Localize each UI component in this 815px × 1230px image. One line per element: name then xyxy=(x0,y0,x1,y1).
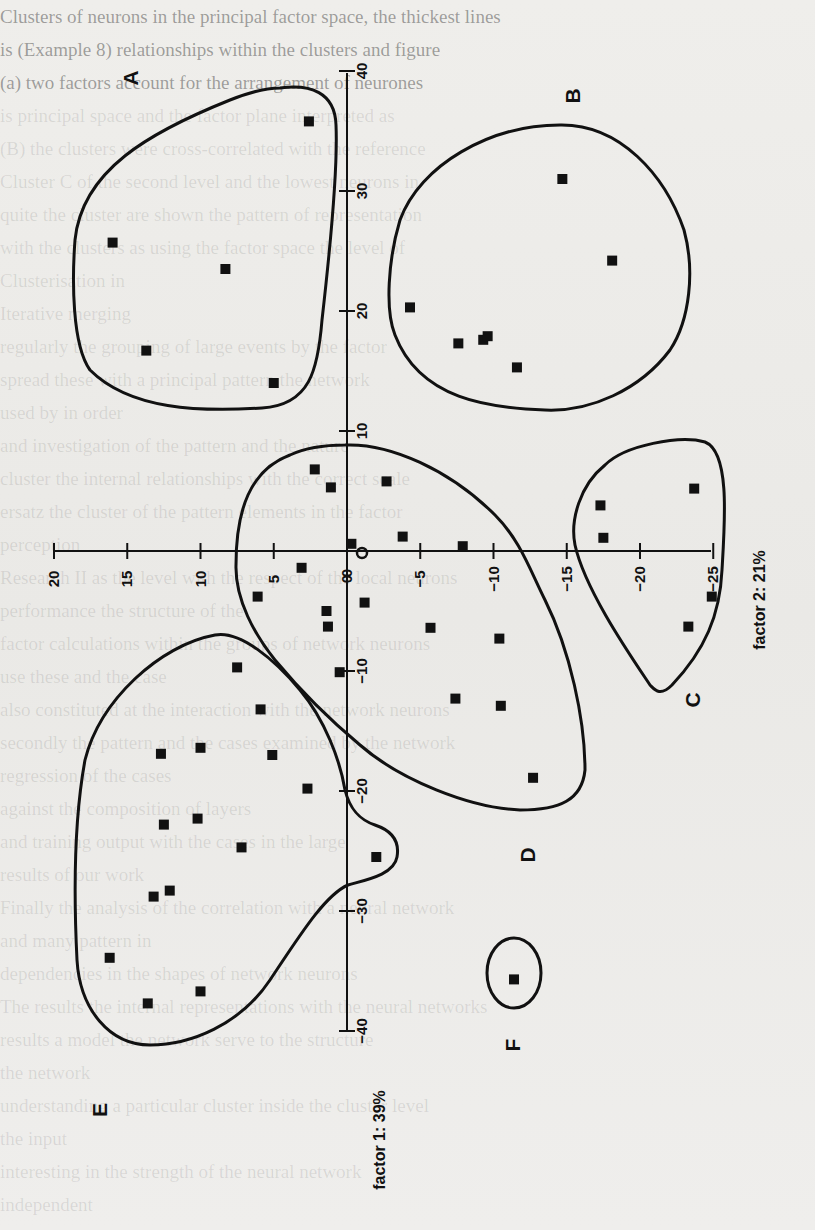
cluster-label-d: D xyxy=(516,847,539,862)
data-point-a xyxy=(269,378,279,388)
factor2-tick-label: 5 xyxy=(265,575,282,583)
data-point-c xyxy=(707,592,717,602)
data-point-a xyxy=(108,238,118,248)
cluster-outline-a xyxy=(74,87,337,409)
data-point-d xyxy=(326,482,336,492)
factor1-axis-title: factor 1: 39% xyxy=(371,1090,388,1190)
data-point-e xyxy=(237,842,247,852)
data-point-e xyxy=(156,749,166,759)
data-point-c xyxy=(595,500,605,510)
data-point-d xyxy=(494,634,504,644)
data-point-c xyxy=(683,622,693,632)
data-point-e xyxy=(232,662,242,672)
factor2-tick-label: −20 xyxy=(631,566,648,591)
data-point-e xyxy=(267,750,277,760)
cluster-label-e: E xyxy=(88,1103,111,1117)
data-point-e xyxy=(159,820,169,830)
cluster-outlines xyxy=(74,87,725,1045)
data-point-d xyxy=(450,694,460,704)
factor-scatter-plot: 20151050−5−10−15−20−25403020100−10−20−30… xyxy=(0,0,815,1230)
factor1-tick-label: 30 xyxy=(353,183,370,200)
cluster-label-b: B xyxy=(561,88,584,103)
data-point-f xyxy=(509,974,519,984)
data-point-e xyxy=(256,704,266,714)
cluster-outline-c xyxy=(574,440,725,692)
data-point-d xyxy=(310,464,320,474)
data-point-e xyxy=(149,892,159,902)
data-point-d xyxy=(382,476,392,486)
factor1-tick-label: 40 xyxy=(353,63,370,80)
data-point-d xyxy=(528,773,538,783)
data-point-a xyxy=(304,116,314,126)
data-point-b xyxy=(607,256,617,266)
data-point-d xyxy=(346,539,356,549)
cluster-outline-d xyxy=(236,445,585,810)
data-point-b xyxy=(405,302,415,312)
factor1-tick-label: −10 xyxy=(353,658,370,683)
factor2-tick-label: −15 xyxy=(558,566,575,591)
factor1-tick-label: 0 xyxy=(338,569,355,577)
factor1-tick-label: −40 xyxy=(353,1018,370,1043)
data-point-d xyxy=(496,701,506,711)
factor1-tick-label: 20 xyxy=(353,303,370,320)
factor1-tick-label: 10 xyxy=(353,423,370,440)
factor2-tick-label: 10 xyxy=(192,571,209,588)
data-point-d xyxy=(323,622,333,632)
factor2-axis-title: factor 2: 21% xyxy=(751,550,768,650)
cluster-label-f: F xyxy=(501,1038,524,1051)
scanned-page: Clusters of neurons in the principal fac… xyxy=(0,0,815,1230)
factor2-tick-label: −10 xyxy=(485,566,502,591)
factor1-tick-label: −20 xyxy=(353,778,370,803)
data-point-c xyxy=(689,484,699,494)
factor2-tick-label: −5 xyxy=(411,570,428,587)
cluster-outline-f xyxy=(487,938,541,1008)
data-point-d xyxy=(321,606,331,616)
data-point-b xyxy=(512,362,522,372)
data-point-b xyxy=(557,174,567,184)
factor2-tick-label: 15 xyxy=(118,571,135,588)
cluster-outline-b xyxy=(389,125,690,410)
factor2-tick-label: 20 xyxy=(45,571,62,588)
data-point-d xyxy=(360,598,370,608)
data-point-a xyxy=(141,346,151,356)
axes xyxy=(54,71,713,1031)
factor2-tick-label: −25 xyxy=(704,566,721,591)
data-point-c xyxy=(598,533,608,543)
data-point-d xyxy=(398,532,408,542)
cluster-outline-e xyxy=(75,634,397,1045)
data-point-d xyxy=(297,563,307,573)
data-point-e xyxy=(196,743,206,753)
data-point-e xyxy=(143,998,153,1008)
data-point-e xyxy=(196,986,206,996)
cluster-label-c: C xyxy=(681,692,704,707)
data-point-e xyxy=(302,784,312,794)
cluster-label-a: A xyxy=(119,70,142,85)
data-point-d xyxy=(426,623,436,633)
data-point-e xyxy=(193,814,203,824)
data-point-d xyxy=(253,592,263,602)
data-point-b xyxy=(483,331,493,341)
factor1-tick-label: −30 xyxy=(353,898,370,923)
data-point-e xyxy=(165,886,175,896)
data-point-b xyxy=(453,338,463,348)
origin-marker xyxy=(357,548,367,558)
data-point-d xyxy=(335,667,345,677)
data-points xyxy=(105,116,717,1008)
data-point-e xyxy=(371,852,381,862)
data-point-e xyxy=(105,953,115,963)
data-point-d xyxy=(458,541,468,551)
data-point-a xyxy=(220,264,230,274)
